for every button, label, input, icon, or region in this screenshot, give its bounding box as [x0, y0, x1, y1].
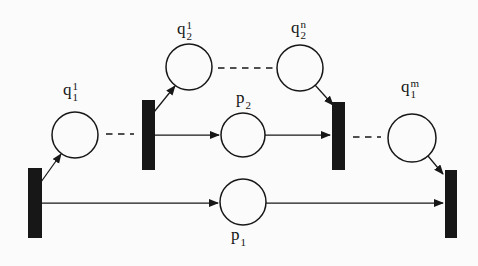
label-scripts: n2	[301, 19, 307, 40]
label-sub: 1	[411, 89, 420, 99]
label-sub: 1	[241, 237, 247, 247]
place-circle-p1	[220, 179, 266, 225]
place-label-q1-1: q11	[63, 81, 78, 103]
place-circle-q2-n	[277, 45, 323, 91]
label-scripts: 1	[241, 226, 247, 247]
label-sup: n	[301, 19, 307, 29]
transition-bar-t-bottom-left	[28, 168, 42, 238]
place-label-p1: p1	[231, 226, 246, 248]
label-scripts: 12	[187, 20, 193, 41]
place-label-q2-1: q12	[177, 20, 192, 42]
arc-q1-m-to-t-bottom-right	[428, 156, 443, 174]
transition-bar-t-mid-right	[332, 102, 345, 170]
label-sup: 1	[73, 81, 79, 91]
label-base: q	[63, 81, 72, 98]
label-scripts: 2	[246, 89, 252, 110]
label-base: q	[401, 78, 410, 95]
label-sub: 2	[301, 30, 307, 40]
label-scripts: 11	[73, 81, 79, 102]
transition-bar-t-bottom-right	[445, 170, 457, 238]
label-sup: m	[411, 78, 420, 88]
place-label-q2-n: qn2	[291, 19, 306, 41]
label-scripts: m1	[411, 78, 420, 99]
petri-net-figure: q11 q12 qn2 p2 qm1 p1	[0, 0, 478, 266]
label-sub: 1	[73, 92, 79, 102]
label-base: p	[236, 89, 245, 106]
place-circle-p2	[221, 113, 265, 157]
label-base: p	[231, 226, 240, 243]
arc-t-mid-left-to-q2-1	[154, 86, 175, 112]
label-sub: 2	[187, 31, 193, 41]
place-circle-q1-1	[52, 112, 98, 158]
arc-q2-n-to-t-mid-right	[315, 85, 333, 105]
arc-t-bottom-left-to-q1-1	[41, 154, 61, 182]
label-sup: 1	[187, 20, 193, 30]
place-label-p2: p2	[236, 89, 251, 111]
transition-bar-t-mid-left	[142, 100, 155, 170]
label-base: q	[291, 19, 300, 36]
place-label-q1-m: qm1	[401, 78, 419, 100]
place-circle-q1-m	[388, 114, 436, 162]
place-circle-q2-1	[166, 44, 212, 90]
label-base: q	[177, 20, 186, 37]
label-sub: 2	[246, 100, 252, 110]
